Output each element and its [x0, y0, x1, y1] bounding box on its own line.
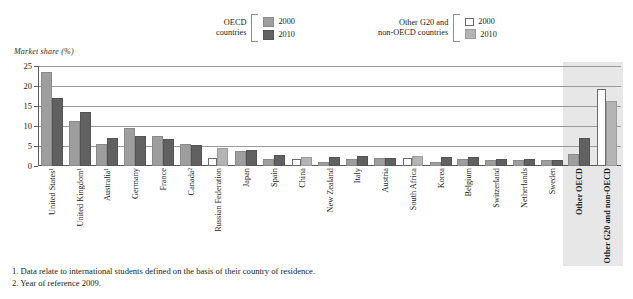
y-axis-tick-label: 0: [4, 161, 32, 171]
y-axis-tick-mark: [34, 86, 38, 87]
bar-group[interactable]: [593, 89, 621, 166]
legend-brace-icon: [251, 14, 258, 42]
x-axis-label: Belgium: [464, 168, 473, 197]
bar[interactable]: [135, 136, 146, 166]
bar[interactable]: [457, 159, 468, 166]
bar[interactable]: [318, 162, 329, 166]
bar[interactable]: [374, 158, 385, 166]
legend-label-other-2010: 2010: [480, 30, 497, 39]
bar[interactable]: [568, 154, 579, 166]
bar[interactable]: [152, 136, 163, 166]
bar[interactable]: [485, 160, 496, 166]
bar[interactable]: [301, 157, 312, 166]
bar-group[interactable]: [399, 156, 427, 166]
x-axis-label: Korea: [437, 168, 446, 188]
chart-footnotes: 1. Data relate to international students…: [12, 265, 622, 289]
bar-group[interactable]: [177, 144, 205, 166]
x-axis-label: United States¹: [48, 168, 57, 215]
x-axis-label: Austria: [381, 168, 390, 192]
bar-group[interactable]: [343, 156, 371, 166]
x-axis-label: France: [159, 168, 168, 191]
x-axis-label: United Kingdom¹: [76, 168, 85, 227]
x-axis-label: South Africa: [409, 168, 418, 210]
bar[interactable]: [274, 155, 285, 166]
bar[interactable]: [80, 112, 91, 166]
y-axis-tick-mark: [34, 66, 38, 67]
y-axis-tick-label: 15: [4, 101, 32, 111]
x-axis-label: Canada²: [187, 168, 196, 195]
legend-group-oecd: OECD countries 2000 2010: [216, 14, 295, 42]
bar-group[interactable]: [149, 136, 177, 166]
y-axis-tick-mark: [34, 106, 38, 107]
bar[interactable]: [597, 89, 606, 166]
y-axis-tick-mark: [34, 126, 38, 127]
bar-group[interactable]: [510, 159, 538, 166]
bar[interactable]: [329, 157, 340, 166]
y-axis-tick-label: 25: [4, 61, 32, 71]
bar-group[interactable]: [260, 155, 288, 166]
bar-group[interactable]: [121, 128, 149, 166]
bar[interactable]: [163, 139, 174, 166]
bar[interactable]: [357, 156, 368, 166]
bar[interactable]: [441, 157, 452, 166]
legend-label-oecd-2010: 2010: [278, 30, 295, 39]
bar-group[interactable]: [482, 159, 510, 166]
legend-swatch-icon-oecd-2000: [263, 17, 274, 27]
bar-group[interactable]: [66, 112, 94, 166]
bar[interactable]: [430, 162, 441, 166]
bar-group[interactable]: [38, 72, 66, 166]
bar[interactable]: [107, 138, 118, 166]
x-axis-label: Netherlands: [520, 168, 529, 208]
bar[interactable]: [513, 160, 524, 166]
bar-group[interactable]: [565, 138, 593, 166]
bar[interactable]: [217, 148, 228, 166]
bar[interactable]: [41, 72, 52, 166]
bar[interactable]: [541, 160, 552, 166]
bar[interactable]: [124, 128, 135, 166]
x-axis-label: Japan: [242, 168, 251, 187]
bar[interactable]: [412, 156, 423, 166]
legend-group-other-title: Other G20 and non-OECD countries: [378, 18, 448, 39]
x-axis-labels: United States¹United Kingdom¹Australia¹G…: [38, 168, 621, 268]
bar[interactable]: [208, 158, 217, 166]
bar[interactable]: [69, 121, 80, 166]
bar[interactable]: [180, 144, 191, 166]
y-axis-tick-label: 10: [4, 121, 32, 131]
footnote-2: 2. Year of reference 2009.: [12, 277, 622, 289]
bar-group[interactable]: [316, 157, 344, 166]
bar[interactable]: [468, 157, 479, 166]
bar[interactable]: [346, 159, 357, 166]
legend-swatch-icon-other-2010: [465, 29, 476, 39]
bar-group[interactable]: [94, 138, 122, 166]
bar[interactable]: [191, 145, 202, 166]
bar[interactable]: [263, 159, 274, 166]
bar[interactable]: [606, 101, 617, 166]
bar[interactable]: [235, 151, 246, 166]
bar[interactable]: [96, 144, 107, 166]
bar[interactable]: [496, 159, 507, 166]
bar[interactable]: [292, 159, 301, 166]
x-axis-label: Other G20 and non-OECD: [603, 168, 612, 264]
bar-group[interactable]: [538, 160, 566, 166]
x-axis-label: Germany: [131, 168, 140, 199]
legend-item-other-2010: 2010: [465, 29, 497, 39]
bar[interactable]: [246, 150, 257, 166]
legend-swatch-icon-oecd-2010: [263, 30, 274, 40]
bar-group[interactable]: [232, 150, 260, 166]
legend-item-other-2000: 2000: [465, 17, 497, 26]
bar[interactable]: [385, 158, 396, 166]
bar-group[interactable]: [205, 148, 233, 166]
bar[interactable]: [579, 138, 590, 166]
x-axis-label: Sweden: [548, 168, 557, 194]
legend-label-oecd-2000: 2000: [278, 17, 295, 26]
bar[interactable]: [524, 159, 535, 166]
footnote-1: 1. Data relate to international students…: [12, 265, 622, 277]
bar-group[interactable]: [427, 157, 455, 166]
x-axis-label: Russian Federation: [214, 168, 223, 232]
bar[interactable]: [552, 160, 563, 166]
bar[interactable]: [403, 158, 412, 166]
bar-group[interactable]: [371, 158, 399, 166]
bar-group[interactable]: [288, 157, 316, 166]
bar-group[interactable]: [454, 157, 482, 166]
bar[interactable]: [52, 98, 63, 166]
